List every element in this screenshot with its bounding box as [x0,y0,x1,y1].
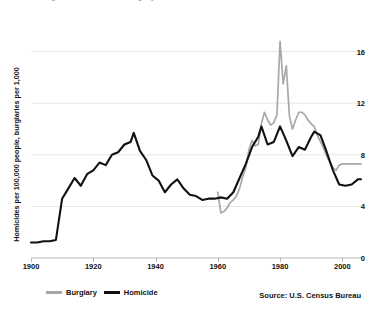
source-note: Source: U.S. Census Bureau [259,291,361,300]
legend-item-homicide: Homicide [104,288,158,297]
y-tick-label: 0 [361,254,365,263]
chart-legend: Burglary Homicide [46,288,158,297]
x-axis-tick [342,258,343,262]
y-tick-label: 16 [357,47,365,56]
x-tick-label: 1900 [23,262,40,271]
chart-container: Figure 1. Homicide and burglary rates Ho… [0,0,369,309]
gridlines [31,52,361,258]
y-tick-label: 8 [361,150,365,159]
series-line-burglary [218,41,361,213]
x-tick-label: 1960 [209,262,226,271]
x-tick-label: 2000 [334,262,351,271]
legend-label-burglary: Burglary [66,288,97,297]
legend-swatch-burglary [46,291,62,294]
y-axis-title: Homicides per 100,000 people, burglaries… [12,60,21,250]
legend-item-burglary: Burglary [46,288,97,297]
series-lines [31,31,361,258]
y-tick-label: 12 [357,99,365,108]
plot-area [31,31,361,258]
y-tick-label: 4 [361,202,365,211]
x-axis-tick [31,258,32,262]
x-tick-label: 1980 [272,262,289,271]
x-axis-tick [280,258,281,262]
x-axis-tick [156,258,157,262]
legend-label-homicide: Homicide [124,288,158,297]
series-line-homicide [31,126,361,242]
x-axis-tick [218,258,219,262]
x-tick-label: 1920 [85,262,102,271]
x-axis-tick [93,258,94,262]
x-tick-label: 1940 [147,262,164,271]
legend-swatch-homicide [104,291,120,294]
